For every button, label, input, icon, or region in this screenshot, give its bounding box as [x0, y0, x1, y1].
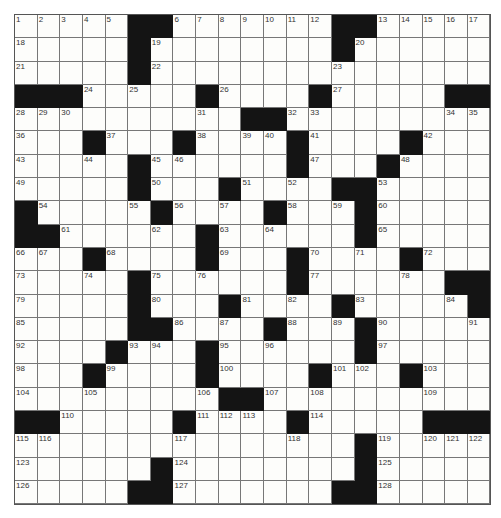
grid-cell[interactable]: [38, 178, 61, 201]
grid-cell[interactable]: [60, 481, 83, 504]
grid-cell[interactable]: [106, 318, 129, 341]
grid-cell[interactable]: 1: [15, 15, 38, 38]
grid-cell[interactable]: [83, 38, 106, 61]
grid-cell[interactable]: [400, 318, 423, 341]
grid-cell[interactable]: [309, 341, 332, 364]
grid-cell[interactable]: 90: [377, 318, 400, 341]
grid-cell[interactable]: [173, 341, 196, 364]
grid-cell[interactable]: [128, 388, 151, 411]
grid-cell[interactable]: [219, 434, 242, 457]
grid-cell[interactable]: [219, 481, 242, 504]
grid-cell[interactable]: [332, 434, 355, 457]
grid-cell[interactable]: [423, 318, 446, 341]
grid-cell[interactable]: [106, 178, 129, 201]
grid-cell[interactable]: [38, 341, 61, 364]
grid-cell[interactable]: 111: [196, 411, 219, 434]
grid-cell[interactable]: [309, 434, 332, 457]
grid-cell[interactable]: [128, 364, 151, 387]
grid-cell[interactable]: [445, 178, 468, 201]
grid-cell[interactable]: [445, 155, 468, 178]
grid-cell[interactable]: 113: [241, 411, 264, 434]
grid-cell[interactable]: 28: [15, 108, 38, 131]
grid-cell[interactable]: [38, 271, 61, 294]
grid-cell[interactable]: [287, 225, 310, 248]
grid-cell[interactable]: 14: [400, 15, 423, 38]
grid-cell[interactable]: 13: [377, 15, 400, 38]
grid-cell[interactable]: [173, 108, 196, 131]
grid-cell[interactable]: 26: [219, 85, 242, 108]
grid-cell[interactable]: 83: [355, 295, 378, 318]
grid-cell[interactable]: [219, 131, 242, 154]
grid-cell[interactable]: [241, 62, 264, 85]
grid-cell[interactable]: [60, 341, 83, 364]
grid-cell[interactable]: 79: [15, 295, 38, 318]
grid-cell[interactable]: [196, 38, 219, 61]
grid-cell[interactable]: [106, 225, 129, 248]
grid-cell[interactable]: [151, 85, 174, 108]
grid-cell[interactable]: 86: [173, 318, 196, 341]
grid-cell[interactable]: [83, 481, 106, 504]
grid-cell[interactable]: [106, 38, 129, 61]
grid-cell[interactable]: 18: [15, 38, 38, 61]
grid-cell[interactable]: 43: [15, 155, 38, 178]
grid-cell[interactable]: 50: [151, 178, 174, 201]
grid-cell[interactable]: [241, 225, 264, 248]
grid-cell[interactable]: 23: [332, 62, 355, 85]
grid-cell[interactable]: 124: [173, 458, 196, 481]
grid-cell[interactable]: [264, 411, 287, 434]
grid-cell[interactable]: 127: [173, 481, 196, 504]
grid-cell[interactable]: 46: [173, 155, 196, 178]
grid-cell[interactable]: [196, 178, 219, 201]
grid-cell[interactable]: [423, 481, 446, 504]
grid-cell[interactable]: [83, 201, 106, 224]
grid-cell[interactable]: [445, 62, 468, 85]
grid-cell[interactable]: 96: [264, 341, 287, 364]
grid-cell[interactable]: 74: [83, 271, 106, 294]
grid-cell[interactable]: 69: [219, 248, 242, 271]
grid-cell[interactable]: [468, 458, 491, 481]
grid-cell[interactable]: [423, 341, 446, 364]
grid-cell[interactable]: [83, 411, 106, 434]
grid-cell[interactable]: [400, 481, 423, 504]
grid-cell[interactable]: [60, 248, 83, 271]
grid-cell[interactable]: 101: [332, 364, 355, 387]
grid-cell[interactable]: [60, 178, 83, 201]
grid-cell[interactable]: 102: [355, 364, 378, 387]
grid-cell[interactable]: [287, 388, 310, 411]
grid-cell[interactable]: [445, 131, 468, 154]
grid-cell[interactable]: [196, 295, 219, 318]
grid-cell[interactable]: 60: [377, 201, 400, 224]
grid-cell[interactable]: [445, 38, 468, 61]
grid-cell[interactable]: [38, 388, 61, 411]
grid-cell[interactable]: [423, 62, 446, 85]
grid-cell[interactable]: [173, 38, 196, 61]
grid-cell[interactable]: [106, 388, 129, 411]
grid-cell[interactable]: [106, 85, 129, 108]
grid-cell[interactable]: 9: [241, 15, 264, 38]
grid-cell[interactable]: [309, 318, 332, 341]
grid-cell[interactable]: [400, 225, 423, 248]
grid-cell[interactable]: [83, 295, 106, 318]
grid-cell[interactable]: [151, 434, 174, 457]
grid-cell[interactable]: 61: [60, 225, 83, 248]
grid-cell[interactable]: [332, 108, 355, 131]
grid-cell[interactable]: [400, 201, 423, 224]
grid-cell[interactable]: [219, 38, 242, 61]
grid-cell[interactable]: [173, 388, 196, 411]
grid-cell[interactable]: [106, 434, 129, 457]
grid-cell[interactable]: [400, 85, 423, 108]
grid-cell[interactable]: 121: [445, 434, 468, 457]
grid-cell[interactable]: [241, 481, 264, 504]
grid-cell[interactable]: [423, 108, 446, 131]
grid-cell[interactable]: 29: [38, 108, 61, 131]
grid-cell[interactable]: [173, 248, 196, 271]
grid-cell[interactable]: 39: [241, 131, 264, 154]
grid-cell[interactable]: 75: [151, 271, 174, 294]
grid-cell[interactable]: 16: [445, 15, 468, 38]
grid-cell[interactable]: [400, 295, 423, 318]
grid-cell[interactable]: [309, 62, 332, 85]
grid-cell[interactable]: 15: [423, 15, 446, 38]
grid-cell[interactable]: [264, 481, 287, 504]
grid-cell[interactable]: [332, 458, 355, 481]
grid-cell[interactable]: 120: [423, 434, 446, 457]
